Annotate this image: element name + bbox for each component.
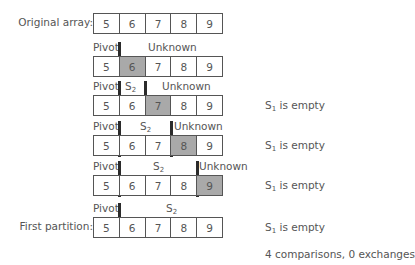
array-cell: 8: [170, 96, 196, 115]
unknown-label: Unknown: [174, 120, 223, 132]
array-cell-current: 6: [119, 57, 145, 76]
array-cell: 9: [196, 57, 222, 76]
s1-text: S: [265, 221, 272, 233]
note-text: is empty: [276, 179, 325, 191]
array-cell-current: 7: [145, 96, 171, 115]
s2-subscript: 2: [132, 86, 136, 94]
array-cell: 5: [94, 176, 119, 195]
s2-label: S2: [125, 80, 136, 94]
array-cell: 9: [196, 218, 222, 237]
s1-text: S: [265, 179, 272, 191]
array-row-step-1: 5 6 7 8 9: [93, 56, 223, 77]
s2-text: S: [125, 80, 132, 92]
s2-text: S: [140, 120, 147, 132]
first-partition-label: First partition:: [19, 220, 93, 232]
pivot-label: Pivot: [93, 80, 119, 92]
s1-empty-note: S1 is empty: [265, 139, 325, 153]
array-cell-current: 9: [196, 176, 222, 195]
unknown-label: Unknown: [199, 160, 248, 172]
array-row-step-3: 5 6 7 8 9: [93, 135, 223, 156]
array-cell: 7: [145, 136, 171, 155]
array-row-first-partition: 5 6 7 8 9: [93, 217, 223, 238]
array-row-original: 5 6 7 8 9: [93, 13, 223, 34]
array-cell: 8: [170, 218, 196, 237]
array-cell: 5: [94, 57, 119, 76]
pivot-label: Pivot: [93, 41, 119, 53]
array-cell: 6: [119, 14, 145, 33]
note-text: is empty: [276, 99, 325, 111]
array-cell: 5: [94, 14, 119, 33]
s1-text: S: [265, 99, 272, 111]
s1-empty-note: S1 is empty: [265, 221, 325, 235]
array-cell: 8: [170, 176, 196, 195]
s2-subscript: 2: [147, 126, 151, 134]
array-cell: 7: [145, 14, 171, 33]
s2-label: S2: [140, 120, 151, 134]
array-cell: 7: [145, 176, 171, 195]
array-cell: 7: [145, 57, 171, 76]
array-cell: 5: [94, 136, 119, 155]
s2-subscript: 2: [160, 166, 164, 174]
s2-subscript: 2: [173, 208, 177, 216]
s1-empty-note: S1 is empty: [265, 99, 325, 113]
pivot-label: Pivot: [93, 160, 119, 172]
array-cell: 9: [196, 136, 222, 155]
s2-label: S2: [166, 202, 177, 216]
s2-label: S2: [153, 160, 164, 174]
array-cell: 7: [145, 218, 171, 237]
pivot-label: Pivot: [93, 120, 119, 132]
array-cell: 9: [196, 96, 222, 115]
array-row-step-4: 5 6 7 8 9: [93, 175, 223, 196]
unknown-label: Unknown: [148, 41, 197, 53]
array-cell: 6: [119, 96, 145, 115]
note-text: is empty: [276, 139, 325, 151]
original-array-label: Original array:: [18, 16, 93, 28]
array-cell: 8: [170, 57, 196, 76]
s1-empty-note: S1 is empty: [265, 179, 325, 193]
array-cell: 6: [119, 136, 145, 155]
s2-text: S: [153, 160, 160, 172]
array-cell: 5: [94, 96, 119, 115]
pivot-label: Pivot: [93, 202, 119, 214]
array-row-step-2: 5 6 7 8 9: [93, 95, 223, 116]
array-cell: 5: [94, 218, 119, 237]
array-cell: 6: [119, 176, 145, 195]
array-cell-current: 8: [170, 136, 196, 155]
note-text: is empty: [276, 221, 325, 233]
array-cell: 8: [170, 14, 196, 33]
array-cell: 9: [196, 14, 222, 33]
s2-text: S: [166, 202, 173, 214]
summary-text: 4 comparisons, 0 exchanges: [265, 248, 415, 260]
s1-text: S: [265, 139, 272, 151]
array-cell: 6: [119, 218, 145, 237]
unknown-label: Unknown: [162, 80, 211, 92]
